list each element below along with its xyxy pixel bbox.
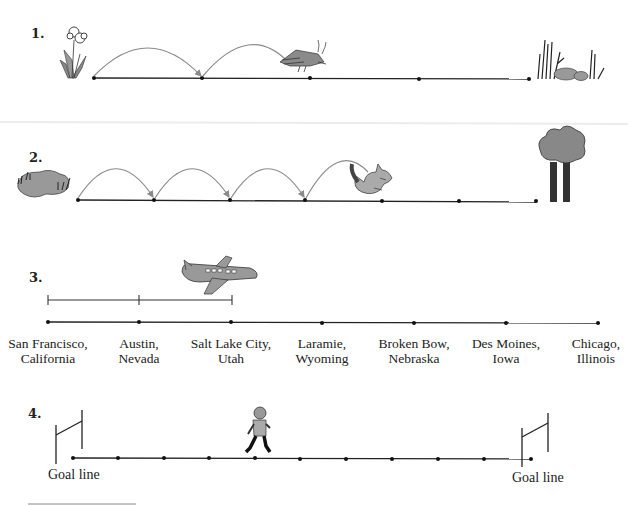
state-name: Illinois: [577, 351, 615, 366]
grass-rocks-icon: [538, 40, 604, 81]
city-name: Salt Lake City,: [191, 336, 272, 351]
number-line-2: [78, 200, 536, 202]
city-label: Laramie,Wyoming: [282, 336, 362, 366]
state-name: Nebraska: [389, 351, 440, 366]
flight-segments: [48, 295, 232, 305]
city-label: Des Moines,Iowa: [461, 336, 551, 366]
city-name: San Francisco,: [8, 336, 87, 351]
state-name: Nevada: [118, 351, 159, 366]
football-player-icon: [246, 407, 270, 452]
state-name: Utah: [218, 351, 244, 366]
grasshopper-icon: [280, 40, 326, 72]
city-label: Salt Lake City,Utah: [181, 336, 281, 366]
airplane-icon: [182, 256, 257, 294]
city-name: Austin,: [119, 336, 158, 351]
jump-arc: [94, 48, 201, 76]
number-line-3: [48, 322, 600, 323]
city-label: Broken Bow,Nebraska: [369, 336, 459, 366]
city-name: Broken Bow,: [378, 336, 449, 351]
city-name: Laramie,: [298, 336, 346, 351]
city-name: Chicago,: [572, 336, 620, 351]
pond-icon: [18, 170, 70, 197]
trees-icon: [539, 126, 585, 202]
flower-icon: [60, 27, 87, 78]
kangaroo-icon: [352, 164, 392, 194]
state-name: Wyoming: [295, 351, 348, 366]
left-goalpost-icon: [56, 410, 82, 464]
city-name: Des Moines,: [472, 336, 540, 351]
state-name: California: [21, 351, 76, 366]
city-label: Chicago,Illinois: [560, 336, 628, 366]
right-goal-line-label: Goal line: [512, 470, 564, 486]
city-label: San Francisco,California: [0, 336, 98, 366]
number-line-1: [94, 78, 530, 79]
left-goal-line-label: Goal line: [48, 467, 100, 483]
number-line-4: [73, 458, 532, 459]
jump-arc: [203, 45, 290, 76]
state-name: Iowa: [493, 351, 520, 366]
city-label: Austin,Nevada: [99, 336, 179, 366]
diagram-canvas: [0, 0, 628, 505]
